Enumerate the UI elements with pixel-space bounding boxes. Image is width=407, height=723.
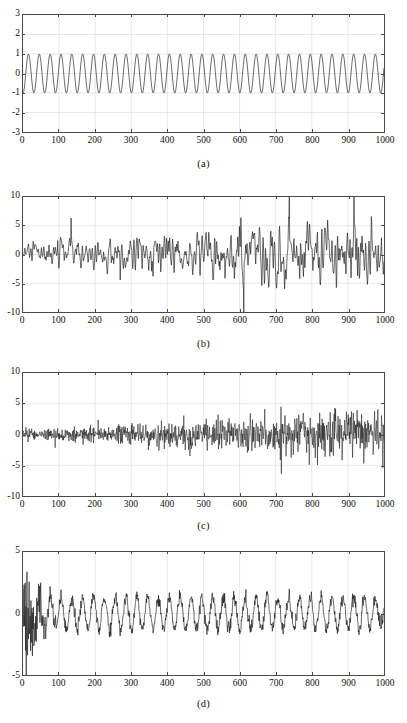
x-tick-label-a: 500 bbox=[196, 136, 210, 146]
x-tick-mark-a bbox=[240, 129, 241, 132]
y-tick-mark-right-b bbox=[381, 284, 384, 285]
y-tick-label-a: -1 bbox=[1, 88, 20, 98]
y-tick-label-b: 0 bbox=[1, 250, 20, 260]
x-tick-label-d: 900 bbox=[342, 679, 356, 689]
y-tick-mark-b bbox=[22, 255, 25, 256]
y-tick-label-a: -2 bbox=[1, 108, 20, 118]
x-tick-mark-top-c bbox=[349, 372, 350, 375]
x-tick-mark-top-a bbox=[276, 14, 277, 17]
x-tick-mark-d bbox=[58, 672, 59, 675]
x-tick-mark-top-d bbox=[58, 551, 59, 554]
y-tick-label-d: -5 bbox=[1, 671, 20, 681]
x-tick-mark-c bbox=[58, 493, 59, 496]
panel-d: -505 01002003004005006007008009001000 (d… bbox=[0, 540, 407, 723]
y-tick-mark-right-b bbox=[381, 225, 384, 226]
x-tick-mark-a bbox=[349, 129, 350, 132]
x-tick-label-b: 500 bbox=[196, 316, 210, 326]
y-tick-label-d: 5 bbox=[1, 546, 20, 556]
x-tick-mark-top-c bbox=[312, 372, 313, 375]
y-tick-mark-a bbox=[22, 74, 25, 75]
x-tick-label-c: 300 bbox=[124, 500, 138, 510]
plot-svg-c bbox=[23, 373, 384, 496]
x-tick-mark-d bbox=[276, 672, 277, 675]
x-tick-label-d: 400 bbox=[160, 679, 174, 689]
x-tick-mark-top-d bbox=[131, 551, 132, 554]
x-tick-mark-b bbox=[167, 309, 168, 312]
x-tick-mark-c bbox=[167, 493, 168, 496]
y-tick-mark-b bbox=[22, 284, 25, 285]
x-tick-mark-top-d bbox=[95, 551, 96, 554]
x-tick-mark-a bbox=[276, 129, 277, 132]
x-tick-mark-c bbox=[131, 493, 132, 496]
x-tick-mark-d bbox=[95, 672, 96, 675]
x-tick-mark-top-a bbox=[240, 14, 241, 17]
x-tick-label-a: 700 bbox=[269, 136, 283, 146]
x-tick-mark-d bbox=[240, 672, 241, 675]
y-tick-mark-c bbox=[22, 403, 25, 404]
y-tick-mark-right-a bbox=[381, 113, 384, 114]
y-tick-mark-c bbox=[22, 435, 25, 436]
x-tick-label-b: 600 bbox=[233, 316, 247, 326]
x-tick-mark-top-c bbox=[131, 372, 132, 375]
x-tick-mark-top-a bbox=[58, 14, 59, 17]
x-tick-label-a: 600 bbox=[233, 136, 247, 146]
x-tick-mark-a bbox=[204, 129, 205, 132]
y-tick-label-a: 0 bbox=[1, 69, 20, 79]
plot-svg-a bbox=[23, 15, 384, 132]
y-tick-label-c: 0 bbox=[1, 430, 20, 440]
x-tick-mark-c bbox=[349, 493, 350, 496]
panel-caption-a: (a) bbox=[0, 158, 407, 169]
y-tick-mark-a bbox=[22, 93, 25, 94]
x-tick-mark-top-b bbox=[131, 196, 132, 199]
x-tick-mark-top-c bbox=[276, 372, 277, 375]
x-tick-label-c: 200 bbox=[87, 500, 101, 510]
x-tick-label-d: 0 bbox=[20, 679, 25, 689]
x-tick-mark-a bbox=[167, 129, 168, 132]
plot-svg-b bbox=[23, 197, 384, 312]
x-tick-mark-top-b bbox=[349, 196, 350, 199]
x-tick-mark-c bbox=[312, 493, 313, 496]
x-tick-mark-top-d bbox=[312, 551, 313, 554]
x-tick-label-b: 100 bbox=[51, 316, 65, 326]
plot-area-b bbox=[22, 196, 385, 313]
x-tick-mark-top-c bbox=[204, 372, 205, 375]
x-tick-label-d: 800 bbox=[305, 679, 319, 689]
panel-caption-c: (c) bbox=[0, 520, 407, 531]
x-tick-mark-a bbox=[95, 129, 96, 132]
x-tick-mark-top-b bbox=[240, 196, 241, 199]
y-tick-mark-right-d bbox=[381, 614, 384, 615]
x-tick-label-b: 1000 bbox=[376, 316, 395, 326]
x-tick-mark-top-b bbox=[204, 196, 205, 199]
x-tick-label-d: 1000 bbox=[376, 679, 395, 689]
x-tick-label-c: 100 bbox=[51, 500, 65, 510]
panel-a: -3-2-10123 01002003004005006007008009001… bbox=[0, 0, 407, 180]
x-tick-mark-top-d bbox=[276, 551, 277, 554]
y-tick-mark-a bbox=[22, 34, 25, 35]
x-tick-label-b: 300 bbox=[124, 316, 138, 326]
x-tick-mark-b bbox=[58, 309, 59, 312]
x-tick-mark-b bbox=[312, 309, 313, 312]
y-tick-label-a: 2 bbox=[1, 29, 20, 39]
x-tick-mark-top-c bbox=[58, 372, 59, 375]
x-tick-label-d: 700 bbox=[269, 679, 283, 689]
x-tick-mark-top-a bbox=[167, 14, 168, 17]
x-tick-mark-top-b bbox=[312, 196, 313, 199]
y-tick-label-d: 0 bbox=[1, 609, 20, 619]
x-tick-mark-b bbox=[204, 309, 205, 312]
y-tick-label-c: 10 bbox=[1, 367, 20, 377]
y-tick-label-b: 10 bbox=[1, 191, 20, 201]
x-tick-label-b: 0 bbox=[20, 316, 25, 326]
y-tick-label-b: 5 bbox=[1, 220, 20, 230]
x-tick-label-b: 900 bbox=[342, 316, 356, 326]
x-tick-mark-d bbox=[167, 672, 168, 675]
y-tick-mark-right-a bbox=[381, 74, 384, 75]
x-tick-label-c: 400 bbox=[160, 500, 174, 510]
x-tick-mark-top-b bbox=[58, 196, 59, 199]
y-tick-mark-right-b bbox=[381, 255, 384, 256]
x-tick-mark-top-c bbox=[167, 372, 168, 375]
x-tick-label-d: 600 bbox=[233, 679, 247, 689]
x-tick-mark-top-a bbox=[131, 14, 132, 17]
x-tick-mark-c bbox=[204, 493, 205, 496]
x-tick-mark-c bbox=[95, 493, 96, 496]
x-tick-mark-top-c bbox=[95, 372, 96, 375]
